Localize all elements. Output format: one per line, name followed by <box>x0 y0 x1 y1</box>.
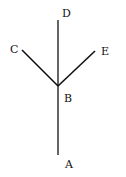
tree-diagram: D C E B A <box>0 0 126 177</box>
edge-b-e <box>58 51 95 86</box>
node-label-e: E <box>101 46 109 57</box>
node-label-c: C <box>10 44 18 55</box>
edge-b-c <box>22 50 58 86</box>
node-label-a: A <box>65 159 73 170</box>
node-label-d: D <box>62 8 71 19</box>
node-label-b: B <box>64 93 72 104</box>
tree-edges <box>0 0 126 177</box>
